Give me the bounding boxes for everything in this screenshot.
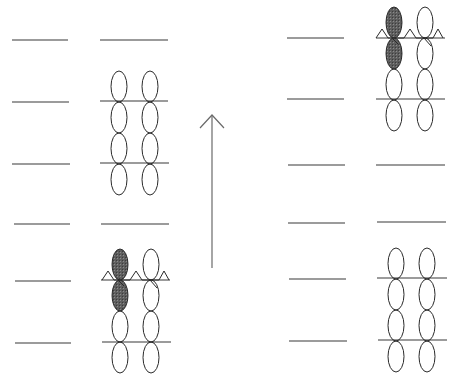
shaded-orbital-lobe (386, 38, 402, 69)
up-arrow-icon (200, 115, 224, 268)
orbital-lobe (388, 279, 404, 310)
orbital-lobe (386, 100, 402, 131)
orbital-lobe (419, 310, 435, 341)
orbital-lobe (142, 71, 158, 102)
diagram-canvas (0, 0, 457, 383)
distortion-wedge (376, 29, 443, 38)
orbital-lobe (142, 102, 158, 133)
panel-top-right (287, 7, 445, 165)
orbital-lobe (419, 279, 435, 310)
orbital-lobe (111, 133, 127, 164)
orbital-lobe (112, 311, 128, 342)
orbital-diagram (0, 0, 457, 383)
orbital-lobe (111, 71, 127, 102)
orbital-lobe (388, 248, 404, 279)
orbital-lobe (111, 102, 127, 133)
orbital-lobe (143, 311, 159, 342)
orbital-lobe (143, 342, 159, 373)
orbital-lobe (388, 341, 404, 372)
orbital-lobe (419, 341, 435, 372)
orbital-lobe (417, 7, 433, 38)
orbital-lobe (142, 164, 158, 195)
shaded-orbital-lobe (386, 7, 402, 38)
orbital-lobe (143, 249, 159, 280)
orbital-lobe (386, 69, 402, 100)
distortion-wedge (102, 271, 169, 280)
orbital-lobe (388, 310, 404, 341)
orbital-lobe (417, 69, 433, 100)
panels-group (12, 7, 447, 373)
orbital-lobe (143, 280, 159, 311)
shaded-orbital-lobe (112, 249, 128, 280)
orbital-lobe (142, 133, 158, 164)
orbital-lobe (417, 38, 433, 69)
orbital-lobe (112, 342, 128, 373)
shaded-orbital-lobe (112, 280, 128, 311)
orbital-lobe (417, 100, 433, 131)
orbital-lobe (111, 164, 127, 195)
panel-bottom-right (288, 222, 447, 372)
panel-bottom-left (14, 224, 171, 373)
panel-top-left (12, 40, 169, 195)
orbital-lobe (419, 248, 435, 279)
